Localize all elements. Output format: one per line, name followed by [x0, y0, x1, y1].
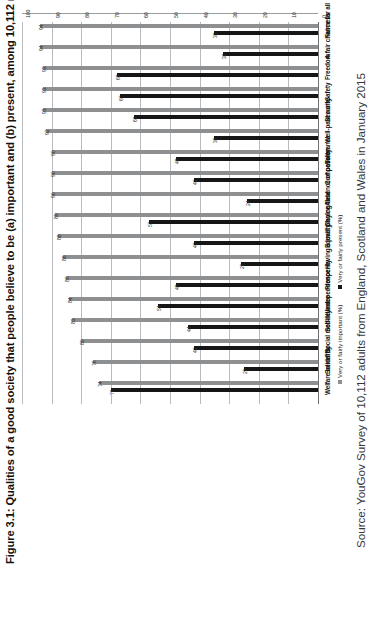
bar-value-important: 83 [70, 319, 76, 324]
y-tick-label-80: 80 [84, 12, 90, 18]
bar-value-present: 67 [118, 96, 124, 101]
figure-container: Figure 3.1: Qualities of a good society … [0, 0, 372, 620]
bar-value-important: 89 [53, 214, 59, 219]
category-label: A fair chance for all [324, 3, 331, 59]
legend-item-1: Very or fairly present (%) [332, 215, 348, 289]
bar-value-important: 88 [56, 235, 62, 240]
legend-item-0: Very or fairly important (%) [332, 305, 348, 384]
bar-value-present: 57 [147, 222, 153, 227]
bar-important [43, 87, 318, 91]
bar-value-important: 94 [38, 46, 44, 51]
bar-important [52, 150, 318, 154]
y-tick-label-60: 60 [143, 12, 149, 18]
bar-important [55, 213, 318, 217]
figure-source: Source: YouGov Survey of 10,112 adults f… [349, 0, 372, 620]
y-tick-label-20: 20 [262, 12, 268, 18]
bar-present [176, 283, 318, 287]
bar-present [158, 304, 318, 308]
bar-important [63, 255, 318, 259]
bar-value-present: 44 [186, 327, 192, 332]
axis-baseline [318, 22, 319, 404]
bar-value-present: 48 [174, 285, 180, 290]
legend-swatch-icon [338, 285, 342, 289]
bar-group [22, 337, 318, 358]
bar-important [40, 45, 318, 49]
bar-value-important: 86 [61, 256, 67, 261]
y-tick-label-30: 30 [232, 12, 238, 18]
bar-important [52, 171, 318, 175]
bar-value-present: 25 [242, 369, 248, 374]
legend-label: Very or fairly important (%) [336, 305, 343, 378]
bar-important [99, 381, 318, 385]
bar-value-important: 93 [41, 67, 47, 72]
bar-group [22, 148, 318, 169]
bar-value-important: 90 [50, 151, 56, 156]
bar-group [22, 127, 318, 148]
bar-group [22, 379, 318, 400]
y-tick-label-10: 10 [291, 12, 297, 18]
bar-present [223, 52, 318, 56]
bar-present [194, 346, 318, 350]
bar-value-present: 42 [192, 348, 198, 353]
bar-present [117, 73, 318, 77]
bar-value-important: 76 [91, 361, 97, 366]
bar-group [22, 190, 318, 211]
category-label: Having a level playing field [324, 192, 331, 269]
legend-swatch-icon [338, 380, 342, 384]
bar-value-present: 42 [192, 243, 198, 248]
bar-value-important: 92 [44, 130, 50, 135]
bar-group [22, 85, 318, 106]
bar-value-present: 35 [212, 33, 218, 38]
bar-present [247, 199, 318, 203]
bar-important [69, 297, 318, 301]
bar-group [22, 316, 318, 337]
bar-important [43, 66, 318, 70]
bar-important [40, 24, 318, 28]
chart-plot-area: 01020304050607080901009435Fairness9432A … [0, 0, 372, 620]
bar-important [66, 276, 318, 280]
bar-value-present: 54 [156, 306, 162, 311]
bar-important [72, 318, 318, 322]
bar-present [120, 94, 318, 98]
bar-present [194, 241, 318, 245]
bar-important [81, 339, 318, 343]
category-label: Welfare benefits [324, 348, 331, 395]
bar-important [52, 192, 318, 196]
bar-value-important: 93 [41, 88, 47, 93]
y-tick-label-90: 90 [55, 12, 61, 18]
bar-value-present: 32 [221, 54, 227, 59]
bar-group [22, 358, 318, 379]
bar-group [22, 64, 318, 85]
chart-legend: Very or fairly important (%)Very or fair… [332, 0, 348, 620]
bar-present [241, 262, 318, 266]
bar-present [194, 178, 318, 182]
bar-value-important: 93 [41, 109, 47, 114]
bar-value-present: 42 [192, 180, 198, 185]
bar-present [111, 388, 318, 392]
legend-label: Very or fairly present (%) [336, 215, 343, 283]
bar-value-important: 90 [50, 172, 56, 177]
bar-value-important: 80 [79, 340, 85, 345]
y-tick-label-100: 100 [25, 10, 31, 18]
y-tick-label-50: 50 [173, 12, 179, 18]
bar-value-important: 85 [64, 277, 70, 282]
bar-present [214, 31, 318, 35]
bar-group [22, 43, 318, 64]
bar-value-important: 74 [97, 382, 103, 387]
bar-value-present: 24 [245, 201, 251, 206]
bar-value-present: 70 [109, 390, 115, 395]
bar-group [22, 22, 318, 43]
bar-group [22, 106, 318, 127]
bar-present [134, 115, 318, 119]
bar-present [214, 136, 318, 140]
bar-group [22, 232, 318, 253]
bar-present [188, 325, 318, 329]
bar-value-present: 26 [239, 264, 245, 269]
bar-value-present: 68 [115, 75, 121, 80]
bar-important [43, 108, 318, 112]
bar-important [58, 234, 318, 238]
bar-present [149, 220, 318, 224]
bar-present [176, 157, 318, 161]
bar-group [22, 211, 318, 232]
category-label: Freedom [324, 54, 331, 80]
